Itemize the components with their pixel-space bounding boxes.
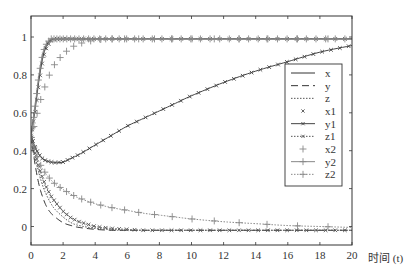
x-tick-label: 6 xyxy=(125,249,131,261)
legend-label: x1 xyxy=(325,105,336,117)
x-tick-label: 10 xyxy=(186,249,198,261)
legend-label: x2 xyxy=(325,143,336,155)
x-tick-label: 16 xyxy=(282,249,294,261)
x-tick-label: 12 xyxy=(218,249,229,261)
x-tick-label: 18 xyxy=(314,249,326,261)
x-tick-label: 2 xyxy=(60,249,66,261)
y-tick-label: 1 xyxy=(22,31,28,43)
x-tick-label: 0 xyxy=(28,249,34,261)
y-tick-label: 0.4 xyxy=(13,145,27,157)
legend-label: z xyxy=(325,92,330,104)
legend-label: x xyxy=(325,67,331,79)
legend-label: y2 xyxy=(325,156,336,168)
y-tick-label: 0.8 xyxy=(13,69,27,81)
x-tick-label: 8 xyxy=(157,249,163,261)
x-tick-label: 14 xyxy=(250,249,262,261)
y-tick-label: 0.6 xyxy=(13,107,27,119)
line-chart: 0246810121416182000.20.40.60.81 时间 (t) x… xyxy=(0,0,407,275)
legend-label: y xyxy=(325,80,331,92)
legend-label: z1 xyxy=(325,130,335,142)
legend-label: z2 xyxy=(325,168,335,180)
x-tick-label: 20 xyxy=(347,249,359,261)
legend-label: y1 xyxy=(325,118,336,130)
y-tick-label: 0.2 xyxy=(13,183,27,195)
legend: xyzx1y1z1x2y2z2 xyxy=(285,64,342,186)
chart-background xyxy=(0,0,407,275)
x-axis-label: 时间 (t) xyxy=(368,252,403,265)
y-tick-label: 0 xyxy=(22,221,28,233)
x-tick-label: 4 xyxy=(92,249,98,261)
